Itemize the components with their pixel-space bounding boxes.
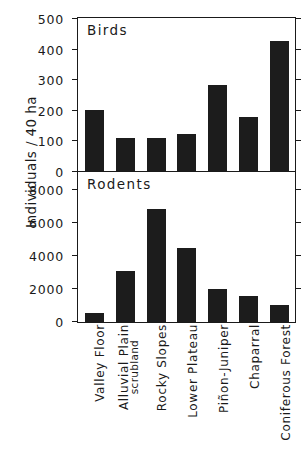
y-tick-right <box>295 18 301 19</box>
x-category-1: Valley Floor <box>84 324 103 457</box>
bar-group-rodents <box>78 172 295 322</box>
y-tick-label: 4000 <box>29 248 64 263</box>
x-axis-category-labels: Valley FloorAlluvial PlainscrublandRocky… <box>77 324 296 457</box>
y-tick: 0 <box>72 321 78 322</box>
y-tick-label: 500 <box>38 12 64 27</box>
y-tick: 200 <box>72 110 78 111</box>
x-category-label: Lower Plateau <box>187 324 199 418</box>
y-tick-right <box>295 49 301 50</box>
panel-birds: Birds 0100200300400500 <box>77 17 296 172</box>
bar <box>85 110 104 171</box>
x-category-4: Lower Plateau <box>177 324 196 457</box>
y-tick: 100 <box>72 140 78 141</box>
y-tick-right <box>295 222 301 223</box>
bar <box>116 138 135 171</box>
y-tick: 4000 <box>72 255 78 256</box>
figure: Individuals / 40 ha Birds 01002003004005… <box>0 0 307 457</box>
y-tick-right <box>295 288 301 289</box>
bar <box>208 85 227 171</box>
y-tick-label: 8000 <box>29 182 64 197</box>
y-tick: 300 <box>72 79 78 80</box>
bar <box>239 296 258 322</box>
x-category-label: Valley Floor <box>94 324 106 402</box>
bar <box>177 134 196 171</box>
bar <box>270 41 289 171</box>
x-category-label: Rocky Slopes <box>156 324 168 411</box>
y-tick-right <box>295 79 301 80</box>
y-tick: 8000 <box>72 189 78 190</box>
y-tick-label: 400 <box>38 42 64 57</box>
bar <box>116 271 135 322</box>
y-tick-label: 0 <box>55 165 64 180</box>
bar <box>85 313 104 322</box>
x-category-2: Alluvial Plainscrubland <box>115 324 134 457</box>
panel-rodents: Rodents 02000400060008000 <box>77 172 296 323</box>
y-axis-title: Individuals / 40 ha <box>23 47 39 277</box>
bar <box>147 138 166 171</box>
bar <box>270 305 289 322</box>
y-tick-label: 2000 <box>29 281 64 296</box>
x-category-label: Alluvial Plainscrubland <box>118 324 140 410</box>
bar-group-birds <box>78 18 295 171</box>
bar <box>147 209 166 322</box>
x-category-label: Piñon-Juniper <box>218 324 230 413</box>
y-tick-label: 6000 <box>29 215 64 230</box>
x-category-label: Chaparral <box>249 324 261 389</box>
x-category-label: Coniferous Forest <box>280 324 292 441</box>
bar <box>177 248 196 322</box>
bar <box>208 289 227 322</box>
bar <box>239 117 258 171</box>
y-tick-label: 300 <box>38 73 64 88</box>
x-category-5: Piñon-Juniper <box>209 324 228 457</box>
y-tick-label: 0 <box>55 315 64 330</box>
y-tick-right <box>295 189 301 190</box>
y-tick-label: 100 <box>38 134 64 149</box>
y-tick-label: 200 <box>38 103 64 118</box>
y-tick: 6000 <box>72 222 78 223</box>
x-category-6: Chaparral <box>240 324 259 457</box>
y-tick-right <box>295 140 301 141</box>
y-tick: 2000 <box>72 288 78 289</box>
x-category-3: Rocky Slopes <box>146 324 165 457</box>
y-tick: 400 <box>72 49 78 50</box>
y-tick-right <box>295 255 301 256</box>
y-tick: 500 <box>72 18 78 19</box>
x-category-7: Coniferous Forest <box>271 324 290 457</box>
y-tick-right <box>295 110 301 111</box>
